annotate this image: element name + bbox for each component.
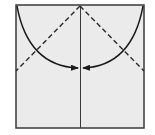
fold-diagram — [0, 0, 155, 135]
